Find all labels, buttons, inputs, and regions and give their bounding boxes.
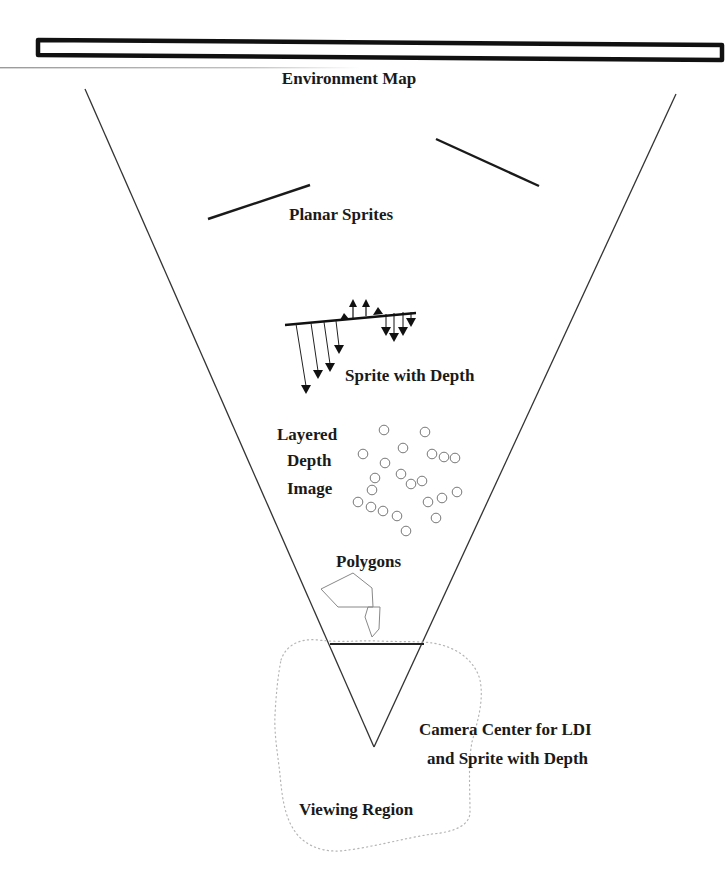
ldi-label-line3: Image (287, 479, 333, 498)
rendering-representations-diagram: Environment Map Planar Sprites (0, 0, 725, 889)
polygons-shapes (321, 573, 380, 637)
sprite-with-depth-label: Sprite with Depth (345, 366, 475, 385)
view-frustum (85, 89, 676, 747)
viewing-region-label: Viewing Region (299, 800, 414, 819)
camera-center-label-line1: Camera Center for LDI (419, 720, 592, 739)
polygons-label: Polygons (336, 552, 402, 571)
environment-map-bar (38, 40, 722, 60)
ldi-label-line2: Depth (287, 451, 332, 470)
ldi-label-line1: Layered (277, 425, 338, 444)
planar-sprites-label: Planar Sprites (289, 205, 393, 224)
viewing-region-outline (275, 640, 481, 851)
environment-map-label: Environment Map (282, 69, 416, 88)
layered-depth-image-samples (353, 425, 462, 536)
camera-center-label-line2: and Sprite with Depth (427, 749, 589, 768)
